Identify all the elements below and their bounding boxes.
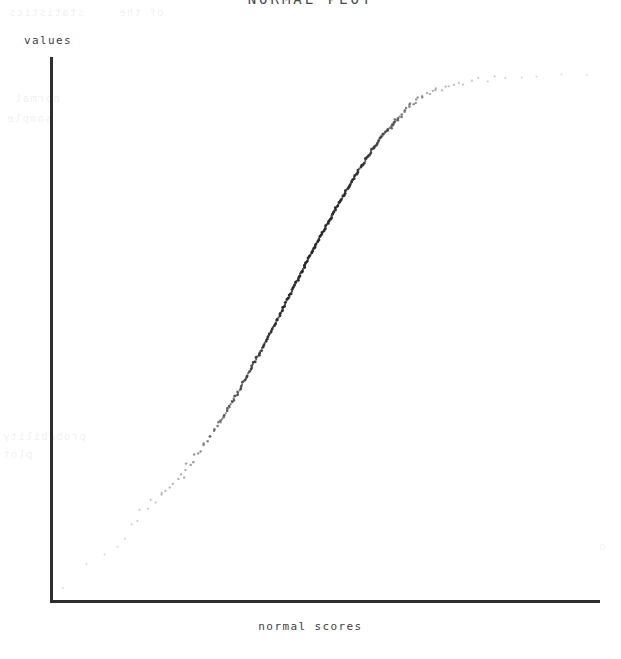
data-point bbox=[62, 587, 64, 589]
data-point bbox=[409, 102, 411, 104]
data-point bbox=[213, 428, 216, 431]
data-point bbox=[535, 75, 537, 77]
data-point bbox=[435, 87, 437, 89]
data-point bbox=[226, 407, 229, 410]
data-point-fill bbox=[221, 418, 223, 420]
data-point bbox=[471, 80, 473, 82]
data-point bbox=[192, 461, 194, 463]
data-point bbox=[290, 292, 293, 295]
data-point bbox=[404, 109, 407, 112]
y-axis-label: values bbox=[24, 34, 72, 47]
axis-spines bbox=[51, 57, 601, 603]
normal-plot-canvas bbox=[0, 0, 621, 659]
data-point-fill bbox=[241, 384, 243, 386]
data-point bbox=[150, 499, 152, 501]
data-point bbox=[445, 85, 447, 87]
data-point bbox=[504, 77, 506, 79]
data-point bbox=[299, 274, 302, 277]
data-point-fill bbox=[225, 412, 227, 414]
data-point bbox=[164, 490, 166, 492]
data-point bbox=[124, 538, 126, 540]
data-point bbox=[586, 74, 588, 76]
data-point bbox=[217, 421, 220, 424]
data-point bbox=[521, 76, 523, 78]
data-point bbox=[199, 450, 201, 452]
data-point bbox=[183, 477, 185, 479]
data-point bbox=[193, 453, 195, 455]
data-point bbox=[453, 84, 455, 86]
data-point bbox=[236, 391, 239, 394]
data-point bbox=[172, 483, 174, 485]
data-point bbox=[260, 349, 263, 352]
data-point bbox=[494, 75, 496, 77]
data-point bbox=[177, 478, 179, 480]
data-point bbox=[448, 85, 450, 87]
data-point bbox=[155, 501, 157, 503]
page-title: NORMAL PLOT bbox=[0, 0, 621, 7]
data-point-series bbox=[62, 73, 588, 588]
data-point-fill bbox=[233, 397, 235, 399]
data-point bbox=[434, 89, 436, 91]
data-point bbox=[462, 84, 464, 86]
data-point bbox=[138, 509, 140, 511]
data-point bbox=[169, 486, 171, 488]
x-axis-label: normal scores bbox=[0, 620, 621, 633]
data-point bbox=[197, 452, 199, 454]
data-point bbox=[184, 469, 186, 471]
data-point bbox=[458, 82, 460, 84]
data-point bbox=[487, 80, 489, 82]
data-point bbox=[441, 89, 443, 91]
data-point bbox=[254, 361, 257, 364]
data-point bbox=[209, 435, 212, 438]
data-point bbox=[400, 116, 403, 119]
data-point-fill bbox=[341, 197, 343, 199]
data-point bbox=[429, 93, 431, 95]
data-point bbox=[202, 442, 204, 444]
data-point bbox=[216, 425, 219, 428]
data-point bbox=[477, 77, 479, 79]
data-point bbox=[160, 494, 162, 496]
data-point bbox=[415, 98, 417, 100]
data-point bbox=[147, 508, 149, 510]
data-point-fill bbox=[275, 321, 277, 323]
data-point bbox=[400, 113, 403, 116]
data-point bbox=[116, 546, 118, 548]
data-point bbox=[136, 520, 138, 522]
data-point bbox=[412, 103, 414, 105]
data-point bbox=[104, 554, 106, 556]
data-point bbox=[426, 92, 428, 94]
data-point bbox=[223, 414, 226, 417]
data-point bbox=[131, 523, 133, 525]
data-point-fill bbox=[364, 160, 366, 162]
data-point bbox=[432, 90, 434, 92]
data-point bbox=[301, 270, 304, 273]
data-point-fill bbox=[230, 403, 232, 405]
data-point bbox=[190, 464, 192, 466]
data-point bbox=[180, 473, 182, 475]
data-point bbox=[405, 107, 408, 110]
data-point bbox=[421, 96, 423, 98]
data-point bbox=[185, 462, 187, 464]
data-point bbox=[206, 440, 208, 442]
data-point bbox=[416, 96, 418, 98]
data-point bbox=[86, 563, 88, 565]
data-point bbox=[246, 375, 249, 378]
data-point bbox=[561, 73, 563, 75]
data-point bbox=[415, 102, 417, 104]
data-point-fill bbox=[231, 400, 233, 402]
